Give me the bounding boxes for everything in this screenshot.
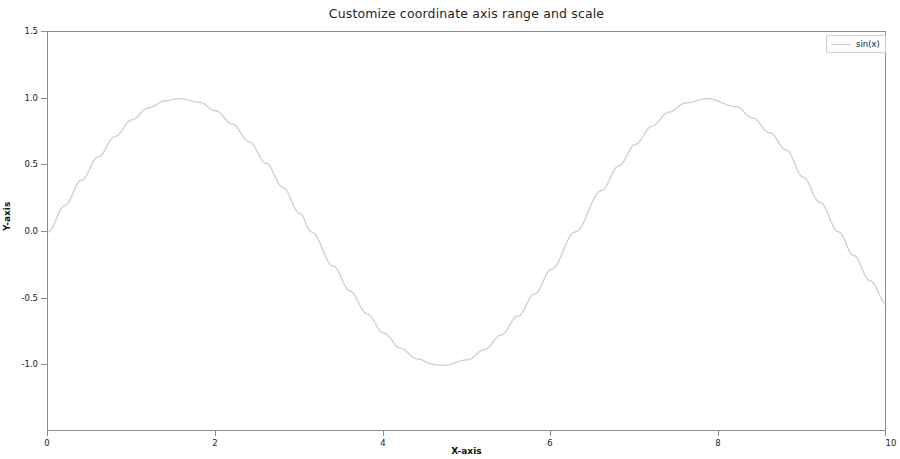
x-tick-label: 10	[886, 438, 897, 448]
x-tick-mark	[47, 431, 48, 436]
y-axis-label: Y-axis	[2, 202, 12, 231]
y-tick-mark	[41, 364, 47, 365]
y-tick-label: 1.5	[24, 26, 38, 36]
x-axis-label: X-axis	[47, 446, 886, 456]
chart-legend: sin(x)	[826, 35, 886, 53]
y-tick-mark	[41, 164, 47, 165]
x-tick-mark	[885, 431, 886, 436]
y-tick-label: -1.0	[21, 359, 38, 369]
y-tick-label: 1.0	[24, 93, 38, 103]
y-tick-mark	[41, 298, 47, 299]
x-tick-mark	[383, 431, 384, 436]
legend-line-swatch-icon	[831, 44, 851, 45]
matplotlib-figure: Customize coordinate axis range and scal…	[0, 0, 900, 459]
y-tick-label: 0.0	[24, 226, 38, 236]
plot-axes-area	[47, 31, 886, 431]
y-tick-label: -0.5	[21, 293, 38, 303]
series-line-sinx	[48, 99, 887, 366]
y-tick-mark	[41, 31, 47, 32]
x-tick-mark	[718, 431, 719, 436]
x-tick-mark	[215, 431, 216, 436]
sine-curve-plot	[48, 32, 887, 432]
y-tick-mark	[41, 98, 47, 99]
y-tick-mark	[41, 231, 47, 232]
legend-entry-label: sin(x)	[856, 39, 880, 49]
chart-title: Customize coordinate axis range and scal…	[47, 6, 886, 21]
x-tick-mark	[550, 431, 551, 436]
y-tick-label: 0.5	[24, 159, 38, 169]
